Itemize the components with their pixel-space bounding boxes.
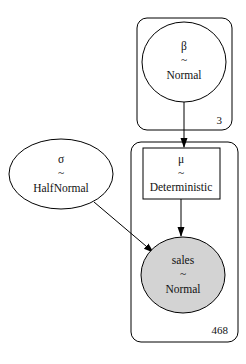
node-mu-dist: Deterministic	[150, 181, 213, 193]
node-mu[interactable]: μ ~ Deterministic	[143, 148, 220, 199]
node-sales-dist: Normal	[165, 283, 200, 295]
node-beta-dist: Normal	[166, 69, 201, 81]
node-mu-name: μ	[178, 153, 184, 166]
model-graph: 3 468 β ~ Normal σ ~ HalfNormal μ ~ Dete…	[0, 0, 246, 364]
node-sigma-tilde: ~	[58, 167, 64, 179]
node-mu-tilde: ~	[178, 167, 184, 179]
node-sales-name: sales	[172, 254, 195, 266]
node-sigma[interactable]: σ ~ HalfNormal	[9, 139, 113, 209]
plate-3-label: 3	[217, 114, 223, 126]
plate-468-label: 468	[212, 324, 229, 336]
node-sigma-dist: HalfNormal	[33, 182, 89, 194]
node-sales[interactable]: sales ~ Normal	[141, 237, 225, 313]
node-beta-tilde: ~	[181, 54, 187, 66]
node-sigma-name: σ	[58, 153, 65, 165]
node-sales-tilde: ~	[180, 268, 186, 280]
node-beta-name: β	[181, 40, 187, 53]
node-beta[interactable]: β ~ Normal	[142, 22, 226, 102]
edge-sigma-sales	[94, 202, 153, 252]
